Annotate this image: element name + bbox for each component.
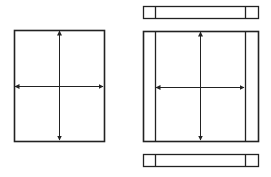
diagram-canvas bbox=[0, 0, 271, 177]
right-panel bbox=[144, 7, 259, 167]
left-panel bbox=[15, 31, 105, 142]
top-bar bbox=[144, 7, 259, 19]
bottom-bar bbox=[144, 155, 259, 167]
